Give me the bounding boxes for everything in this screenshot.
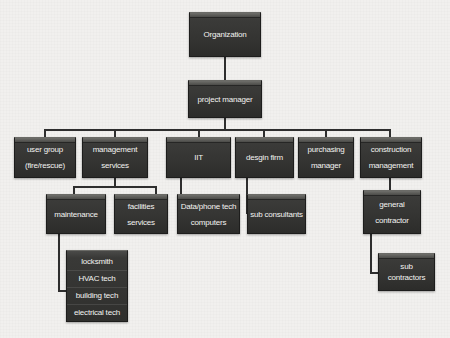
node-top-highlight: [189, 81, 261, 86]
node-general-contractor-label-line1: general: [366, 199, 418, 210]
connector-construction-management-to-general-contractor: [389, 178, 391, 190]
node-trade-building-tech-label: building tech: [76, 291, 118, 301]
node-data-phone-tech-label-line1: Data/phone tech: [180, 201, 237, 212]
node-data-phone-tech[interactable]: Data/phone tech computers: [177, 194, 240, 234]
node-trade-hvac-tech[interactable]: HVAC tech: [67, 271, 127, 288]
connector-organization-to-project-manager: [224, 57, 226, 80]
node-purchasing-manager-label-line2: manager: [301, 160, 351, 171]
connector-management-services-bus: [73, 186, 157, 188]
node-facilities-services-label-line2: services: [117, 217, 165, 228]
node-management-services-label-line1: management: [85, 144, 145, 155]
node-data-phone-tech-label-line2: computers: [180, 217, 237, 228]
node-top-highlight: [167, 138, 230, 143]
node-purchasing-manager-label-line1: purchasing: [301, 144, 351, 155]
node-construction-management[interactable]: construction management: [360, 137, 422, 178]
node-organization-label: Organization: [192, 29, 258, 40]
node-top-highlight: [299, 138, 353, 143]
node-top-highlight: [248, 195, 305, 200]
node-general-contractor[interactable]: general contractor: [363, 190, 421, 234]
node-sub-consultants[interactable]: sub consultants: [247, 194, 306, 234]
node-top-highlight: [190, 13, 260, 18]
node-user-group[interactable]: user group (fire/rescue): [14, 137, 76, 178]
node-management-services-label-line2: services: [85, 160, 145, 171]
node-top-highlight: [364, 191, 420, 196]
node-trade-electrical-tech[interactable]: electrical tech: [67, 305, 127, 321]
node-trade-locksmith[interactable]: locksmith: [67, 254, 127, 271]
node-design-firm[interactable]: desgin firm: [235, 137, 294, 178]
node-trade-building-tech[interactable]: building tech: [67, 288, 127, 305]
node-trades-stack[interactable]: locksmith HVAC tech building tech electr…: [66, 250, 128, 322]
node-facilities-services-label-line1: facilities: [117, 201, 165, 212]
node-construction-management-label-line1: construction: [363, 144, 419, 155]
node-top-highlight: [115, 195, 167, 200]
connector-general-contractor-drop: [370, 234, 372, 274]
node-top-highlight: [236, 138, 293, 143]
org-chart-canvas: Organization project manager user group …: [0, 0, 450, 338]
node-general-contractor-label-line2: contractor: [366, 215, 418, 226]
node-top-highlight: [83, 138, 147, 143]
node-user-group-label-line2: (fire/rescue): [17, 160, 73, 171]
node-construction-management-label-line2: management: [363, 160, 419, 171]
connector-level2-bus: [45, 129, 391, 131]
node-maintenance-label: maintenance: [49, 209, 103, 220]
node-user-group-label-line1: user group: [17, 144, 73, 155]
node-sub-contractors-label: sub contractors: [381, 261, 432, 283]
node-project-manager-label: project manager: [191, 94, 259, 105]
node-top-highlight: [178, 195, 239, 200]
node-purchasing-manager[interactable]: purchasing manager: [298, 137, 354, 178]
node-facilities-services[interactable]: facilities services: [114, 194, 168, 234]
node-top-highlight: [15, 138, 75, 143]
node-trade-hvac-tech-label: HVAC tech: [78, 274, 115, 284]
node-trade-electrical-tech-label: electrical tech: [74, 308, 120, 318]
node-trade-locksmith-label: locksmith: [81, 257, 113, 267]
node-management-services[interactable]: management services: [82, 137, 148, 178]
node-organization[interactable]: Organization: [189, 12, 261, 57]
node-top-highlight: [47, 195, 105, 200]
node-sub-consultants-label: sub consultants: [250, 209, 303, 220]
node-design-firm-label: desgin firm: [238, 152, 291, 163]
node-sub-contractors[interactable]: sub contractors: [378, 253, 435, 291]
node-top-highlight: [379, 254, 434, 259]
connector-maintenance-drop: [58, 234, 60, 292]
node-maintenance[interactable]: maintenance: [46, 194, 106, 234]
node-iit[interactable]: IIT: [166, 137, 231, 178]
node-iit-label: IIT: [169, 152, 228, 163]
node-top-highlight: [361, 138, 421, 143]
node-project-manager[interactable]: project manager: [188, 80, 262, 118]
